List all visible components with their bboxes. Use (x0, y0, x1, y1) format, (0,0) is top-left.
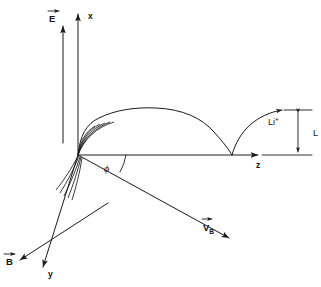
magnetic-field-vector: B (4, 203, 108, 267)
upper-trajectory-fan (78, 122, 114, 155)
lower-trajectory-fan (56, 156, 82, 200)
drift-velocity-subscript: B (209, 228, 214, 235)
cycloid-arch-1 (78, 108, 232, 155)
ion-label-group: Li+ (268, 116, 279, 128)
drift-velocity-label: VB (203, 222, 214, 235)
angle-phi: ϕ (104, 155, 126, 174)
drift-velocity-vector: VB (78, 155, 229, 238)
angle-phi-label: ϕ (104, 163, 109, 174)
ion-trajectory-cycloid (78, 108, 282, 155)
diagram-svg: x z y E B VB (0, 0, 321, 287)
magnetic-field-label: B (6, 256, 13, 267)
axis-x-label: x (88, 11, 93, 21)
axis-z-label: z (256, 160, 260, 170)
physics-diagram-canvas: x z y E B VB (0, 0, 321, 287)
electric-field-label: E (49, 13, 55, 24)
angle-phi-arc (120, 155, 126, 172)
axis-y-label: y (48, 269, 53, 279)
electric-field-vector: E (48, 11, 63, 143)
axis-y: y (43, 155, 78, 279)
ion-label: Li+ (268, 116, 279, 128)
dimension-label: L (313, 128, 318, 138)
ion-charge: + (275, 116, 279, 123)
